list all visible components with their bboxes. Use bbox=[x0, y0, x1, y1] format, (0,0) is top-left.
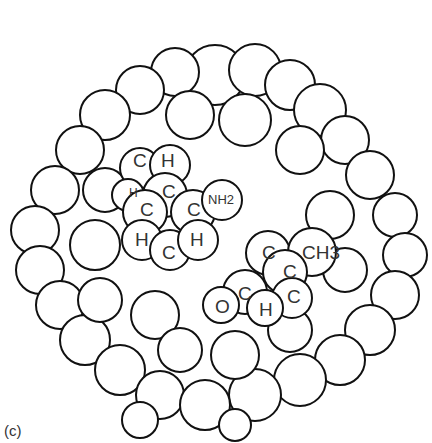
atom-label: O bbox=[215, 297, 230, 316]
atom-label: H bbox=[135, 230, 149, 249]
atom-label: H bbox=[161, 151, 175, 170]
atom-label: H bbox=[129, 187, 138, 199]
atom-label: C bbox=[162, 182, 176, 201]
atom-label: C bbox=[238, 284, 252, 303]
atom-label: C bbox=[162, 243, 176, 262]
atom-label: H bbox=[190, 230, 204, 249]
space-filling-spheres bbox=[0, 0, 432, 443]
atom-label: C bbox=[287, 287, 301, 306]
atom-label: C bbox=[262, 243, 276, 262]
atom-label: C bbox=[187, 200, 201, 219]
atom-label: CH3 bbox=[302, 243, 340, 262]
atom-label: NH2 bbox=[208, 193, 234, 206]
atom-label: H bbox=[259, 300, 273, 319]
atom-label: C bbox=[133, 151, 147, 170]
molecular-model-figure bbox=[0, 0, 432, 443]
atom-label: C bbox=[140, 200, 154, 219]
atom-label: C bbox=[283, 262, 297, 281]
panel-label: (c) bbox=[4, 422, 22, 439]
